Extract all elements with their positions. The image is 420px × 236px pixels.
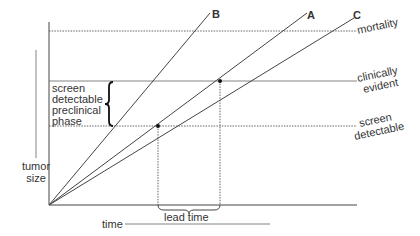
screen-detection-point [156, 124, 160, 128]
line-b-label: B [212, 8, 220, 20]
y-axis-label-line2: size [26, 172, 46, 184]
line-a-label: A [307, 9, 315, 21]
x-axis-label: time [102, 218, 123, 230]
screening-lead-time-diagram: tumor size time screen detectable precli… [0, 0, 420, 236]
y-axis-label-line1: tumor [22, 160, 50, 172]
clinical-detection-point [218, 79, 222, 83]
mortality-label: mortality [356, 15, 400, 35]
phase-label-line4: phase [52, 115, 82, 127]
lead-time-label: lead time [164, 211, 209, 223]
line-c-label: C [353, 9, 361, 21]
preclinical-phase-brace [105, 82, 113, 126]
